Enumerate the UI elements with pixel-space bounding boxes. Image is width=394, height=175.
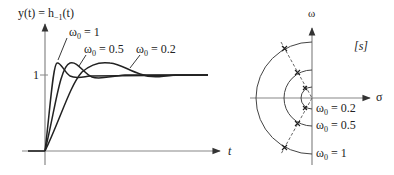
y-axis-label: y(t) = h−1(t)	[18, 6, 74, 22]
pointer-w0-02	[130, 55, 140, 68]
pointer-w0-05	[79, 55, 86, 66]
plane-label: [s]	[354, 39, 368, 53]
x-axis-label: t	[228, 144, 232, 158]
tick-one-label: 1	[33, 68, 39, 82]
step-response-plot: y(t) = h−1(t) t 1 ω0 = 1 ω0 = 0.5 ω0 = 0…	[18, 6, 232, 165]
pointer-w0-1	[58, 38, 67, 60]
omega-axis-label: ω	[308, 7, 315, 19]
sigma-axis-label: σ	[376, 90, 383, 104]
figure: y(t) = h−1(t) t 1 ω0 = 1 ω0 = 0.5 ω0 = 0…	[0, 0, 394, 175]
label-circle-05: ω0 = 0.5	[316, 118, 356, 134]
label-circle-1: ω0 = 1	[316, 146, 347, 162]
label-w0-02: ω0 = 0.2	[136, 42, 176, 58]
curve-w0-1	[45, 63, 208, 151]
s-plane-plot: ω σ [s] ω0 = 0.2 ω0 = 0.5 ω0 = 1	[250, 7, 383, 165]
label-circle-02: ω0 = 0.2	[316, 101, 356, 117]
label-w0-1: ω0 = 1	[69, 25, 100, 41]
label-w0-05: ω0 = 0.5	[84, 42, 124, 58]
